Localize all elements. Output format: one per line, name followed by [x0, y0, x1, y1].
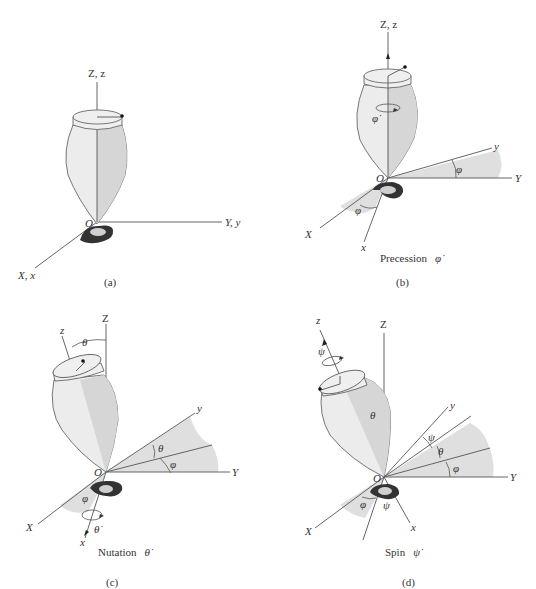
panel-a: Z, z Y, y X, x O (a) [17, 67, 241, 289]
label-X-b: X [304, 228, 313, 240]
label-theta-right-d: θ [438, 445, 444, 457]
label-psi-top-d: ψ [318, 345, 325, 357]
label-theta-top-c: θ [82, 336, 88, 348]
label-X-d: X [304, 525, 313, 537]
caption-d: (d) [402, 576, 415, 589]
panel-d: z Z ψ θ y ψ θ φ Y O φ ψ X x Spinψ̇ (d) [304, 314, 518, 589]
label-Zz-a: Z, z [88, 67, 105, 79]
label-phi-right-d: φ [453, 462, 459, 474]
X-axis-c [38, 472, 106, 524]
label-origin-c: O [94, 466, 102, 478]
panel-c: Z z θ y Y θ φ O φ θ̇ X x Nutationθ̇ (c) [25, 312, 240, 589]
label-x-c: x [79, 536, 85, 548]
label-psi-right-d: ψ [428, 431, 435, 443]
label-X-c: X [25, 521, 34, 533]
euler-angles-figure: Z, z Y, y X, x O (a) Z, z [0, 0, 536, 589]
label-thetadot-c: θ̇ [94, 523, 103, 535]
caption-c: (c) [106, 576, 119, 589]
motion-label-c: Nutationθ̇ [98, 546, 154, 558]
label-x-b: x [360, 241, 366, 253]
label-x-d: x [410, 521, 416, 533]
caption-b: (b) [396, 276, 409, 289]
motion-label-d: Spinψ̇ [385, 546, 424, 558]
label-phi-right-b: φ [456, 163, 462, 175]
label-Y-c: Y [232, 466, 240, 478]
label-Yy-a: Y, y [225, 216, 241, 228]
label-phi-left-d: φ [360, 498, 366, 510]
panel-b: Z, z φ̇ y Y φ φ O X x Precessionφ̇ (b) [304, 18, 523, 289]
label-Y-b: Y [515, 172, 523, 184]
label-y-b: y [493, 140, 499, 152]
label-Z-d: Z [380, 318, 387, 330]
label-Xx-a: X, x [17, 269, 35, 281]
label-origin-b: O [376, 172, 384, 184]
caption-a: (a) [104, 276, 117, 289]
label-Y-d: Y [510, 471, 518, 483]
X-axis-d [315, 477, 384, 528]
label-phi-left-c: φ [82, 492, 88, 504]
label-Zz-b: Z, z [380, 18, 397, 30]
label-phi-right-c: φ [170, 458, 176, 470]
label-theta-right-c: θ [158, 442, 164, 454]
label-z-c: z [59, 324, 65, 336]
label-origin-a: O [85, 217, 93, 229]
label-origin-d: O [373, 472, 381, 484]
motion-label-b: Precessionφ̇ [380, 252, 445, 264]
label-y-c: y [196, 402, 202, 414]
label-phi-left-b: φ [355, 204, 361, 216]
label-psi-bottom-d: ψ [383, 499, 390, 511]
label-z-d: z [315, 314, 321, 326]
label-theta-mid-d: θ [370, 409, 376, 421]
label-y-d: y [449, 399, 455, 411]
label-Z-c: Z [102, 312, 109, 324]
